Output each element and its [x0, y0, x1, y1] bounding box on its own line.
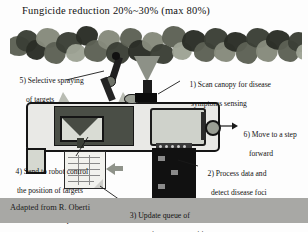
source-credit: Adapted from R. Oberti — [10, 203, 90, 212]
callout-2-line2: detect disease foci — [200, 188, 267, 198]
callout-1: 1) Scan canopy for disease symptoms sens… — [182, 70, 271, 128]
callout-5: 5) Selective spraying of targets — [12, 66, 84, 124]
sensor-housing — [135, 93, 157, 102]
callout-5-line1: 5) Selective spraying — [20, 76, 84, 85]
callout-2-line1: 2) Process data and — [208, 169, 267, 178]
callout-1-line1: 1) Scan canopy for disease — [190, 80, 271, 89]
feedback-arrow-head — [106, 163, 115, 175]
spray-tank-stem — [77, 138, 84, 148]
callout-3: 3) Update queue of spraying targets posi… — [122, 201, 212, 232]
hopper-funnel — [134, 56, 160, 82]
callout-5-line2: of targets — [12, 95, 84, 105]
callout-6-line2: forward — [236, 149, 297, 159]
sheet-corner-fold — [94, 179, 103, 188]
callout-4-line2: the position of targets — [8, 186, 88, 196]
callout-3-line1: 3) Update queue of — [130, 211, 190, 220]
callout-6-line1: 6) Move to a step — [244, 130, 297, 139]
spray-nozzle — [112, 52, 120, 60]
callout-4-line1: 4) Send to robot control — [16, 167, 89, 176]
processing-unit-tower — [152, 148, 196, 198]
callout-1-line2: symptoms sensing — [182, 99, 271, 109]
feedback-arrow-tail — [115, 166, 123, 171]
callout-3-line2: spraying targets position — [122, 230, 212, 232]
figure-root: Fungicide reduction 20%~30% (max 80%) — [0, 0, 308, 232]
